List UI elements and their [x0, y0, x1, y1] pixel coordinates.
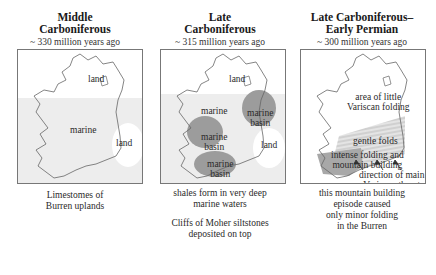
label-marine: marine [70, 125, 96, 135]
label-gentle-folds: gentle folds [353, 136, 398, 146]
panel-age: ~ 330 million years ago [5, 37, 145, 47]
label-land-east: land [261, 140, 277, 150]
panel-caption: Limestomes of Burren uplands [5, 190, 145, 212]
label-land-north: land [229, 74, 245, 84]
panel-caption: shales form in very deep marine waters [150, 188, 290, 210]
panel-middle-carboniferous: Middle Carboniferous ~ 330 million years… [5, 0, 145, 275]
label-basin-west: marinebasin [201, 132, 227, 152]
label-land-east: land [116, 138, 132, 148]
label-basin-east: marinebasin [247, 108, 273, 128]
map-frame: land marine marinebasin marinebasin land… [160, 49, 286, 184]
label-basin-south: marinebasin [207, 159, 233, 179]
panel-caption: this mountain building episode caused on… [292, 188, 432, 232]
panel-age: ~ 300 million years ago [292, 37, 432, 47]
panel-late-carboniferous-early-permian: Late Carboniferous– Early Permian ~ 300 … [292, 0, 432, 275]
panel-title: Middle Carboniferous [5, 11, 145, 35]
panel-late-carboniferous: Late Carboniferous ~ 315 million years a… [150, 0, 290, 275]
label-thrust-direction: direction of mainVariscan thrust [359, 170, 424, 184]
ireland-map [18, 50, 142, 183]
label-marine: marine [201, 106, 227, 116]
map-frame: land marine land [17, 49, 143, 184]
label-little-folding: area of littleVariscan folding [347, 92, 410, 112]
panel-caption-secondary: Cliffs of Moher siltstones deposited on … [150, 218, 290, 240]
map-frame: area of littleVariscan folding gentle fo… [300, 49, 426, 184]
label-intense-folding: intense folding andmountain building [331, 150, 404, 170]
panel-title: Late Carboniferous [150, 11, 290, 35]
label-land-north: land [88, 74, 104, 84]
panel-title: Late Carboniferous– Early Permian [292, 11, 432, 35]
panel-age: ~ 315 million years ago [150, 37, 290, 47]
